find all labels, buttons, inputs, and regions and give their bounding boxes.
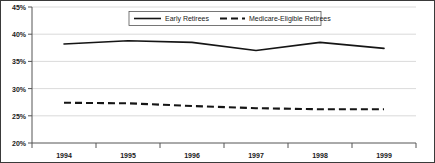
plot-area-background: [32, 7, 416, 143]
y-tick-label-20: 20%: [12, 140, 27, 147]
x-tick-label-1998: 1998: [312, 152, 328, 159]
x-tick-label-1994: 1994: [56, 152, 72, 159]
chart-legend: Early Retirees Medicare-Eligible Retiree…: [129, 12, 331, 26]
x-tick-label-1995: 1995: [120, 152, 136, 159]
y-tick-label-35: 35%: [12, 58, 27, 65]
legend-label-medicare-eligible-retirees: Medicare-Eligible Retirees: [249, 15, 331, 23]
x-tick-marks: [32, 143, 416, 148]
x-tick-label-1996: 1996: [184, 152, 200, 159]
x-tick-label-1997: 1997: [248, 152, 264, 159]
y-tick-label-45: 45%: [12, 4, 27, 11]
chart-figure: 45% 40% 35% 30% 25% 20% 1994 1995 1996 1…: [0, 0, 435, 163]
x-tick-label-1999: 1999: [376, 152, 392, 159]
y-tick-label-40: 40%: [12, 31, 27, 38]
y-tick-marks: [28, 7, 32, 143]
legend-label-early-retirees: Early Retirees: [165, 15, 209, 23]
y-tick-label-25: 25%: [12, 113, 27, 120]
y-tick-label-30: 30%: [12, 86, 27, 93]
line-chart: 45% 40% 35% 30% 25% 20% 1994 1995 1996 1…: [1, 1, 435, 163]
